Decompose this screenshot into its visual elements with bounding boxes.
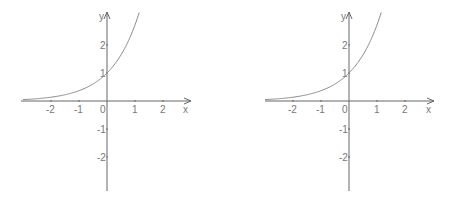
- graph-left-svg: -2-101221-1-2xy: [0, 0, 228, 197]
- x-tick-label: 2: [160, 104, 166, 115]
- x-axis-label: x: [183, 104, 188, 115]
- x-tick-label: 1: [132, 104, 138, 115]
- x-tick-label: 1: [374, 104, 380, 115]
- exponential-curve: [23, 13, 139, 100]
- x-tick-label: 2: [402, 104, 408, 115]
- graph-left: -2-101221-1-2xy: [0, 0, 228, 197]
- y-tick-label: -1: [339, 124, 348, 135]
- x-tick-label: -2: [288, 104, 297, 115]
- exponential-curve: [265, 13, 381, 100]
- y-axis-label: y: [341, 11, 346, 22]
- y-tick-label: -1: [97, 124, 106, 135]
- x-axis-label: x: [426, 104, 431, 115]
- x-tick-label: -2: [46, 104, 55, 115]
- y-tick-label: -2: [97, 152, 106, 163]
- y-tick-label: -2: [339, 152, 348, 163]
- x-tick-label: -1: [74, 104, 83, 115]
- x-tick-label: 0: [100, 104, 106, 115]
- y-tick-label: 2: [342, 40, 348, 51]
- x-tick-label: 0: [342, 104, 348, 115]
- graph-right: -2-101221-1-2xy: [228, 0, 456, 197]
- graph-right-svg: -2-101221-1-2xy: [228, 0, 456, 197]
- x-tick-label: -1: [316, 104, 325, 115]
- y-tick-label: 2: [100, 40, 106, 51]
- y-axis-label: y: [99, 11, 104, 22]
